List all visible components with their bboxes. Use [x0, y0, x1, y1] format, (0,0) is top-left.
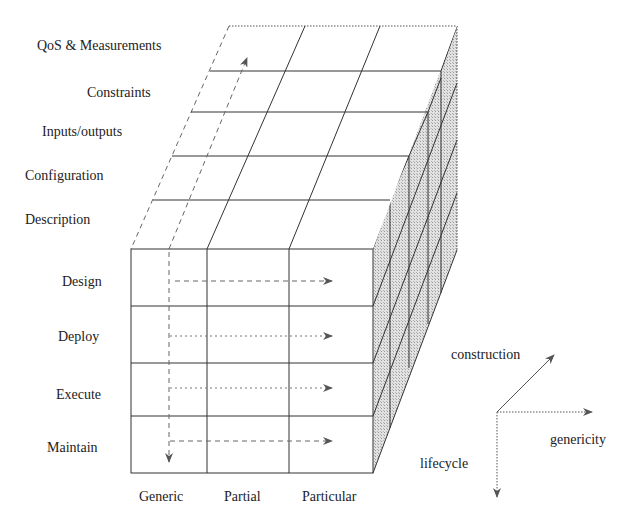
label-execute: Execute: [56, 387, 101, 403]
label-maintain: Maintain: [47, 440, 98, 456]
front-face: [131, 249, 373, 473]
label-description: Description: [25, 212, 90, 228]
label-deploy: Deploy: [58, 329, 99, 345]
label-qos-measurements: QoS & Measurements: [37, 38, 161, 54]
label-inputs-outputs: Inputs/outputs: [42, 124, 122, 140]
label-generic: Generic: [139, 489, 183, 505]
axis-label-construction: construction: [451, 347, 520, 363]
axis-label-genericity: genericity: [550, 432, 606, 448]
construction-axis-arrow: [497, 355, 554, 412]
label-design: Design: [62, 274, 102, 290]
label-partial: Partial: [224, 489, 261, 505]
axes-legend: [497, 355, 592, 497]
label-configuration: Configuration: [25, 168, 104, 184]
label-particular: Particular: [302, 489, 356, 505]
axis-label-lifecycle: lifecycle: [420, 456, 468, 472]
label-constraints: Constraints: [87, 85, 151, 101]
